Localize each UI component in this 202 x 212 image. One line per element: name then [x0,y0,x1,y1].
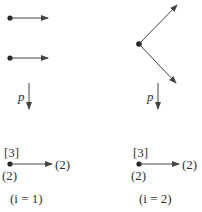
diagram: p [3] (2) (2) (i = 1) p [3] (2) (2) (i =… [0,0,202,212]
caption: (i = 2) [139,191,172,206]
target-label: (2) [55,157,70,172]
arrow-down [139,44,176,83]
bracket-label: [3] [4,145,19,160]
node-label: (2) [131,168,146,183]
bracket-label: [3] [133,145,148,160]
map-label: p [17,89,25,104]
node-label: (2) [2,168,17,183]
target-label: (2) [182,157,197,172]
panel-i2: p [3] (2) (2) (i = 2) [131,5,197,206]
panel-i1: p [3] (2) (2) (i = 1) [2,15,70,206]
caption: (i = 1) [10,191,43,206]
map-label: p [146,89,154,104]
arrow-up [139,5,177,44]
